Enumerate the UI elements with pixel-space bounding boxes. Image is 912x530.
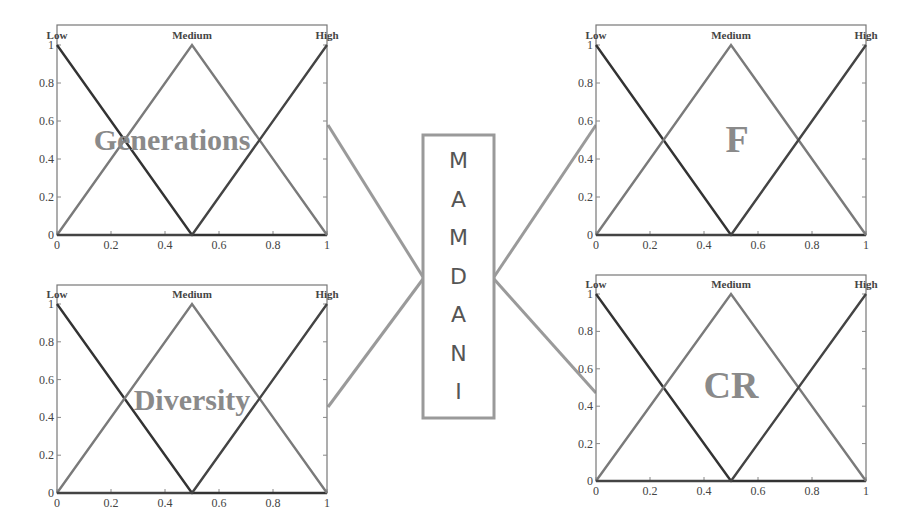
x-tick-label: 1 <box>324 238 330 252</box>
mf-label-high: High <box>854 278 877 290</box>
variable-title: CR <box>704 364 759 406</box>
x-tick-label: 0.8 <box>805 238 820 252</box>
mamdani-letter: A <box>451 302 466 327</box>
variable-title: Diversity <box>134 383 251 416</box>
x-tick-label: 0 <box>54 238 60 252</box>
mf-label-low: Low <box>586 278 607 290</box>
mamdani-letter: M <box>449 148 468 173</box>
x-tick-label: 0.8 <box>805 484 820 498</box>
variable-title: Generations <box>94 123 251 156</box>
y-tick-label: 0.2 <box>39 448 54 462</box>
x-tick-label: 0 <box>54 496 60 510</box>
y-tick-label: 0.6 <box>578 362 593 376</box>
x-tick-label: 0 <box>593 484 599 498</box>
plot-cr: 00.20.40.60.8100.20.40.60.81LowMediumHig… <box>578 275 878 498</box>
plot-diversity: 00.20.40.60.8100.20.40.60.81LowMediumHig… <box>39 285 339 510</box>
y-tick-label: 0.8 <box>39 76 54 90</box>
mamdani-letter: N <box>450 341 466 366</box>
x-tick-label: 0.2 <box>643 484 658 498</box>
y-tick-label: 0.8 <box>39 335 54 349</box>
mf-label-medium: Medium <box>711 278 751 290</box>
mamdani-letter: I <box>455 379 462 404</box>
mf-label-high: High <box>315 288 338 300</box>
x-tick-label: 0.2 <box>104 496 119 510</box>
x-tick-label: 1 <box>324 496 330 510</box>
x-tick-label: 0 <box>593 238 599 252</box>
y-tick-label: 0.6 <box>39 373 54 387</box>
mamdani-letter: M <box>449 225 468 250</box>
mamdani-fuzzy-diagram: MAMDANI 00.20.40.60.8100.20.40.60.81LowM… <box>0 0 912 530</box>
y-tick-label: 0.6 <box>39 114 54 128</box>
x-tick-label: 0.2 <box>104 238 119 252</box>
x-tick-label: 0.4 <box>697 238 712 252</box>
x-tick-label: 0.6 <box>212 496 227 510</box>
y-tick-label: 0.2 <box>578 437 593 451</box>
y-tick-label: 0.2 <box>39 190 54 204</box>
mf-label-medium: Medium <box>711 29 751 41</box>
connector-diversity <box>328 279 423 407</box>
mf-label-medium: Medium <box>172 288 212 300</box>
mamdani-letter: D <box>450 264 467 289</box>
x-tick-label: 0.2 <box>643 238 658 252</box>
y-tick-label: 0.4 <box>39 152 54 166</box>
y-tick-label: 0.2 <box>578 190 593 204</box>
y-tick-label: 0.4 <box>39 410 54 424</box>
x-tick-label: 1 <box>863 484 869 498</box>
mf-label-low: Low <box>47 29 68 41</box>
x-tick-label: 0.6 <box>212 238 227 252</box>
x-tick-label: 0.4 <box>158 496 173 510</box>
mf-label-low: Low <box>47 288 68 300</box>
x-tick-label: 1 <box>863 238 869 252</box>
mf-label-low: Low <box>586 29 607 41</box>
plot-f: 00.20.40.60.8100.20.40.60.81LowMediumHig… <box>578 25 878 252</box>
connector-generations <box>328 125 423 277</box>
mf-label-medium: Medium <box>172 29 212 41</box>
y-tick-label: 0.8 <box>578 324 593 338</box>
x-tick-label: 0.8 <box>266 238 281 252</box>
x-tick-label: 0.6 <box>751 484 766 498</box>
x-tick-label: 0.4 <box>697 484 712 498</box>
mf-label-high: High <box>854 29 877 41</box>
x-tick-label: 0.6 <box>751 238 766 252</box>
mamdani-box: MAMDANI <box>423 135 494 418</box>
y-tick-label: 0.4 <box>578 399 593 413</box>
mamdani-letter: A <box>451 187 466 212</box>
x-tick-label: 0.4 <box>158 238 173 252</box>
y-tick-label: 0.4 <box>578 152 593 166</box>
mf-label-high: High <box>315 29 338 41</box>
variable-title: F <box>725 118 748 160</box>
x-tick-label: 0.8 <box>266 496 281 510</box>
plot-generations: 00.20.40.60.8100.20.40.60.81LowMediumHig… <box>39 25 339 252</box>
y-tick-label: 0.8 <box>578 76 593 90</box>
y-tick-label: 0.6 <box>578 114 593 128</box>
